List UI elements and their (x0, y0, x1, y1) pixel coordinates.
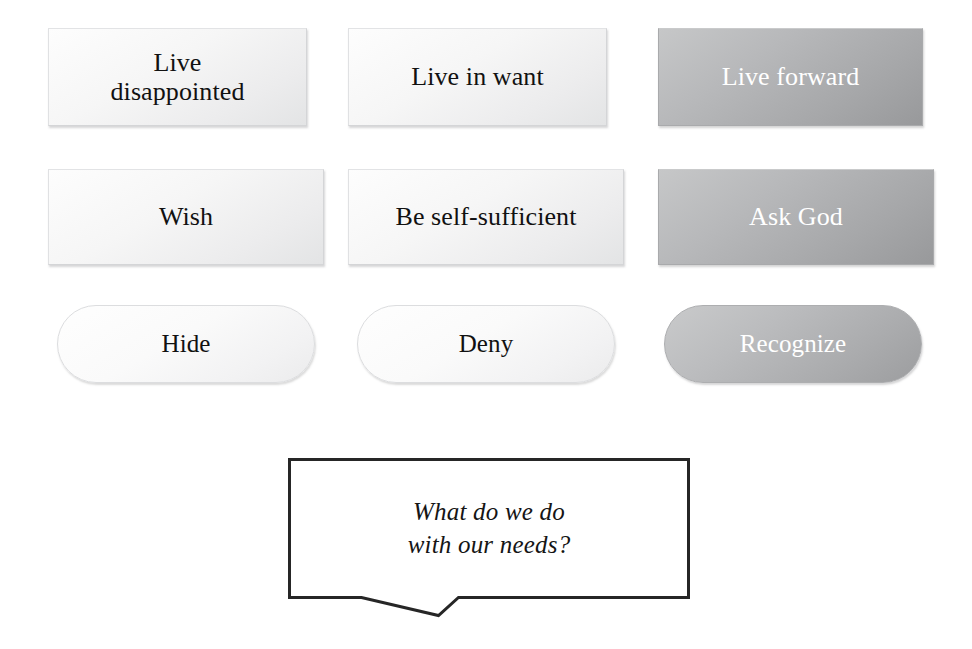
node-live-forward[interactable]: Live forward (658, 28, 923, 126)
node-hide[interactable]: Hide (57, 305, 315, 383)
node-label: Recognize (665, 330, 921, 358)
node-ask-god[interactable]: Ask God (658, 169, 934, 265)
node-be-self-sufficient[interactable]: Be self-sufficient (348, 169, 624, 265)
node-wish[interactable]: Wish (48, 169, 324, 265)
diagram-canvas: Live disappointed Live in want Live forw… (0, 0, 972, 649)
callout-text: What do we do with our needs? (288, 458, 690, 599)
node-label: Wish (49, 202, 323, 231)
node-deny[interactable]: Deny (357, 305, 615, 383)
node-label: Live forward (659, 62, 922, 91)
node-label: Ask God (659, 202, 933, 231)
node-label: Deny (358, 330, 614, 358)
node-label: Live in want (349, 62, 606, 91)
node-live-in-want[interactable]: Live in want (348, 28, 607, 126)
node-label: Hide (58, 330, 314, 358)
node-label: Live disappointed (49, 48, 306, 106)
callout-bubble[interactable]: What do we do with our needs? (288, 458, 690, 623)
node-recognize[interactable]: Recognize (664, 305, 922, 383)
node-live-disappointed[interactable]: Live disappointed (48, 28, 307, 126)
node-label: Be self-sufficient (349, 202, 623, 231)
